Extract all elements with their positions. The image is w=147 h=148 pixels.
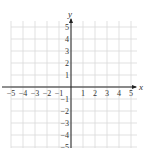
svg-text:−3: −3 — [31, 89, 40, 98]
y-axis-label: y — [67, 9, 72, 19]
svg-text:−2: −2 — [60, 107, 69, 116]
svg-text:−4: −4 — [19, 89, 28, 98]
svg-text:−1: −1 — [60, 95, 69, 104]
svg-text:1: 1 — [81, 89, 85, 98]
svg-text:3: 3 — [65, 47, 69, 56]
x-axis-label: x — [138, 82, 143, 92]
axes — [2, 18, 137, 148]
svg-text:−5: −5 — [7, 89, 16, 98]
grid-lines — [11, 21, 137, 148]
svg-text:−2: −2 — [43, 89, 52, 98]
svg-text:5: 5 — [129, 89, 133, 98]
svg-text:2: 2 — [93, 89, 97, 98]
svg-text:−4: −4 — [60, 131, 69, 140]
tick-labels: −5−4−3−2−11234554321−1−2−3−4−5 — [7, 23, 133, 148]
coordinate-plane: −5−4−3−2−11234554321−1−2−3−4−5 x y — [0, 0, 147, 148]
svg-text:4: 4 — [117, 89, 121, 98]
svg-text:1: 1 — [65, 71, 69, 80]
svg-text:−3: −3 — [60, 119, 69, 128]
svg-text:4: 4 — [65, 35, 69, 44]
svg-text:2: 2 — [65, 59, 69, 68]
svg-text:3: 3 — [105, 89, 109, 98]
svg-text:5: 5 — [65, 23, 69, 32]
svg-text:−5: −5 — [60, 143, 69, 148]
